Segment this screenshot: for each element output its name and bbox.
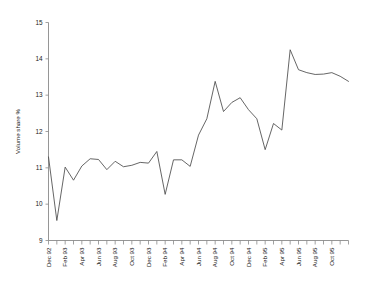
x-tick-label: Aug 95 [311, 247, 318, 267]
data-line-volume-share [49, 50, 349, 221]
y-tick-label: 14 [35, 55, 43, 62]
y-tick-label: 11 [36, 164, 43, 171]
x-tick-label: Dec 92 [45, 247, 52, 267]
y-tick-label: 10 [35, 200, 43, 207]
x-tick-label: Feb 95 [261, 247, 268, 267]
y-axis-title-text: Volume share % [14, 108, 21, 154]
y-tick-label: 9 [39, 237, 43, 244]
x-tick-label: Jun 94 [195, 247, 202, 266]
x-tick-label: Jun 93 [95, 247, 102, 266]
y-tick-label: 13 [35, 91, 43, 98]
x-tick-label: Aug 94 [211, 247, 218, 267]
x-tick-label: Dec 93 [145, 247, 152, 267]
y-axis: 9101112131415 [35, 19, 48, 244]
line-chart: 9101112131415 Dec 92Feb 93Apr 93Jun 93Au… [0, 0, 368, 288]
x-tick-label: Apr 94 [178, 247, 185, 266]
x-tick-label: Feb 94 [161, 247, 168, 267]
chart-container: 9101112131415 Dec 92Feb 93Apr 93Jun 93Au… [0, 0, 368, 288]
x-tick-label: Oct 95 [328, 247, 335, 266]
y-axis-title: Volume share % [14, 108, 21, 154]
y-tick-label: 12 [35, 128, 43, 135]
x-axis: Dec 92Feb 93Apr 93Jun 93Aug 93Oct 93Dec … [45, 241, 349, 268]
x-tick-label: Oct 93 [128, 247, 135, 266]
x-tick-label: Apr 93 [78, 247, 85, 266]
x-tick-label: Oct 94 [228, 247, 235, 266]
x-tick-label: Aug 93 [111, 247, 118, 267]
x-tick-label: Feb 93 [61, 247, 68, 267]
x-tick-label: Jun 95 [295, 247, 302, 266]
y-tick-label: 15 [35, 19, 43, 26]
x-tick-label: Dec 94 [245, 247, 252, 267]
data-series-group [49, 50, 349, 221]
x-tick-label: Apr 95 [278, 247, 285, 266]
